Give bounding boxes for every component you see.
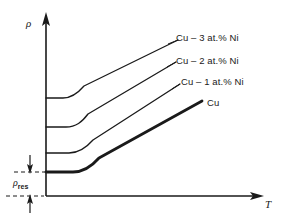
- x-axis: [46, 192, 264, 200]
- curve-label-cu-1-at-pct-ni: Cu – 1 at.% Ni: [181, 76, 244, 87]
- curve-label-cu: Cu: [207, 97, 219, 108]
- curve-cu: [46, 101, 202, 172]
- x-axis-label: T: [265, 198, 271, 210]
- curve-cu-1-at-pct-ni: [46, 84, 180, 153]
- y-axis: [42, 12, 50, 196]
- figure-canvas: [0, 0, 286, 223]
- resistivity-temperature-figure: ρ T Cu – 3 at.% Ni Cu – 2 at.% Ni Cu – 1…: [0, 0, 286, 223]
- residual-resistivity-label: ρres: [13, 177, 28, 190]
- leader-line-cu1: [172, 84, 180, 89]
- curve-label-cu-3-at-pct-ni: Cu – 3 at.% Ni: [176, 32, 239, 43]
- curve-label-cu-2-at-pct-ni: Cu – 2 at.% Ni: [176, 55, 239, 66]
- y-axis-label: ρ: [26, 17, 31, 29]
- leader-line-cu2: [167, 62, 176, 67]
- curve-cu-2-at-pct-ni: [46, 62, 176, 127]
- curve-cu-3-at-pct-ni: [46, 40, 178, 98]
- res-subscript: res: [18, 183, 29, 190]
